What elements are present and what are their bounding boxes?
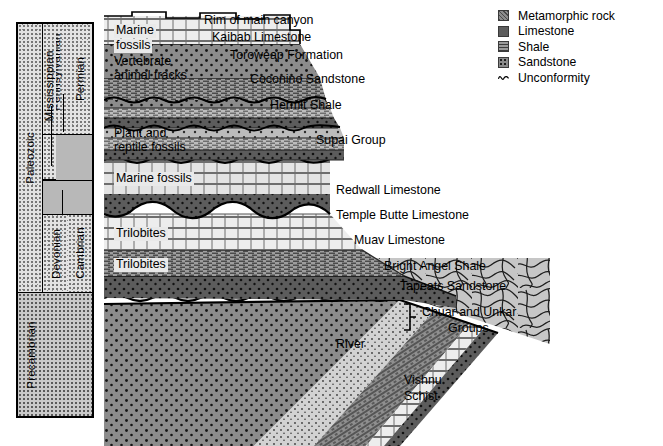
period-label-mississippian: Mississippian (43, 51, 55, 122)
period-cell-mississippian: Mississippian (43, 24, 56, 180)
era-label-precambrian: Precambrian (25, 321, 37, 388)
fossil-label-marine-top-line1: Marine (114, 24, 156, 38)
period-label-permian: Permian (74, 57, 86, 101)
formation-label-tapeats: Tapeats Sandstone (400, 280, 506, 294)
formation-label-toroweap: Toroweap Formation (230, 49, 343, 63)
period-cell-cambrian: Cambrian (68, 214, 92, 292)
fossil-label-marine-mid: Marine fossils (114, 172, 194, 186)
period-label-cambrian: Cambrian (74, 227, 86, 278)
formation-label-chuar-unkar-line1: Chuar and Unkar (422, 306, 516, 320)
formation-label-vishnu-line1: Vishnu (404, 374, 442, 388)
fossil-label-trilobites-1: Trilobites (114, 227, 168, 241)
period-label-devonian: Devonian (50, 228, 62, 278)
formation-label-redwall: Redwall Limestone (336, 184, 441, 198)
era-label-paleozoic: Paleozoic (24, 132, 36, 184)
formation-label-bright-angel: Bright Angel Shale (384, 260, 486, 274)
formation-label-river: River (336, 338, 365, 352)
formation-label-kaibab: Kaibab Limestone (212, 31, 311, 45)
figure-root: Paleozoic Precambrian Permian Pennsylvan… (0, 0, 663, 446)
formation-label-muav: Muav Limestone (354, 234, 445, 248)
column-divider-2 (43, 180, 92, 181)
era-cell-paleozoic: Paleozoic (18, 24, 43, 292)
fossil-label-plant-line1: Plant and (114, 127, 166, 141)
stratigraphic-time-column: Paleozoic Precambrian Permian Pennsylvan… (16, 22, 94, 418)
formation-label-supai: Supai Group (316, 134, 386, 148)
period-cell-devonian: Devonian (43, 214, 68, 292)
fossil-label-trilobites-2: Trilobites (114, 258, 168, 272)
cross-section-diagram: Marine fossils Vertebrate animal tracks … (104, 8, 550, 446)
formation-label-coconino: Coconino Sandstone (250, 73, 365, 87)
fossil-label-plant-line2: reptile fossils (114, 141, 186, 155)
fossil-label-marine-top-line2: fossils (114, 39, 152, 53)
formation-label-rim: Rim of main canyon (204, 14, 314, 28)
period-leader-mississippian (51, 106, 52, 166)
period-leader-devonian (62, 190, 63, 214)
period-leader-pennsylvanian (63, 94, 64, 132)
formation-label-hermit: Hermit Shale (270, 99, 342, 113)
fossil-label-vertebrate-line1: Vertebrate (114, 55, 171, 69)
formation-label-vishnu-line2: Schist (404, 390, 438, 404)
era-cell-precambrian: Precambrian (18, 292, 92, 416)
formation-label-chuar-unkar-line2: Groups (448, 322, 489, 336)
column-divider-3 (43, 214, 92, 215)
fossil-label-vertebrate-line2: animal tracks (114, 69, 187, 83)
formation-label-temple-butte: Temple Butte Limestone (336, 209, 469, 223)
